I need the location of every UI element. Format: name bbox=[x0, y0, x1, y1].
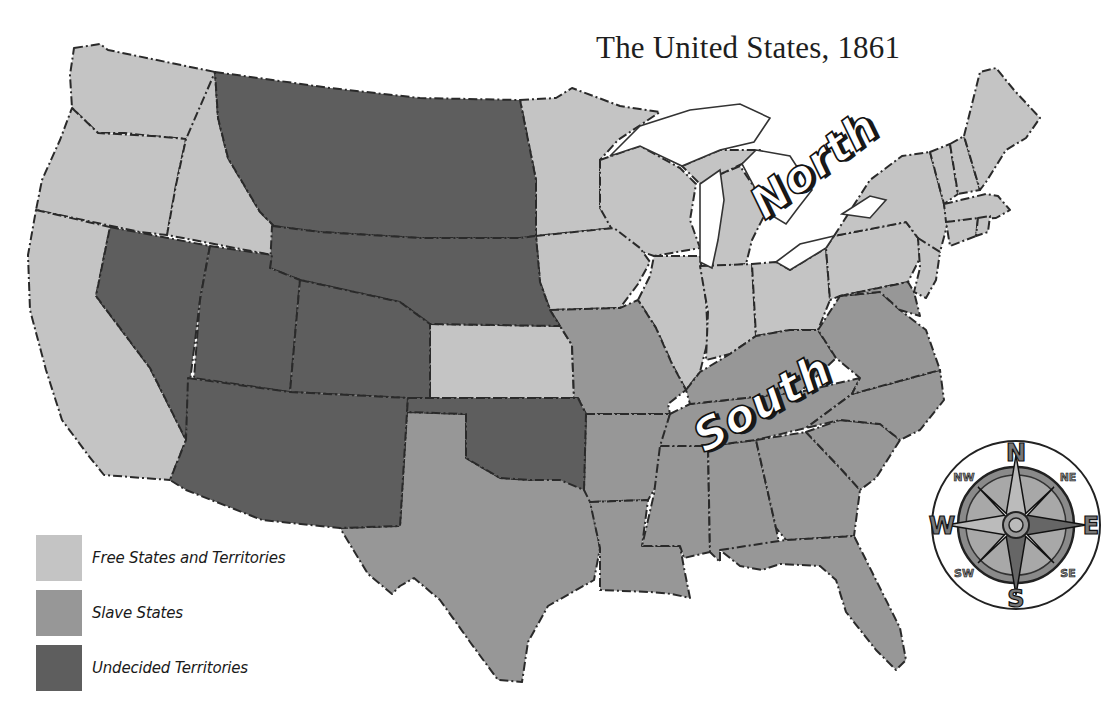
compass-sw: SW bbox=[954, 567, 974, 580]
legend-swatch-free bbox=[36, 535, 82, 581]
map-legend: Free States and Territories Slave States… bbox=[36, 530, 285, 695]
legend-label-free: Free States and Territories bbox=[92, 549, 285, 567]
state-massachusetts bbox=[944, 194, 1010, 222]
compass-e: E bbox=[1083, 512, 1099, 540]
compass-se: SE bbox=[1060, 567, 1075, 580]
state-rhode-island bbox=[976, 216, 990, 236]
compass-s: S bbox=[1007, 585, 1024, 613]
legend-label-undecided: Undecided Territories bbox=[92, 659, 248, 677]
compass-nw: NW bbox=[953, 471, 974, 484]
compass-w: W bbox=[929, 512, 955, 540]
legend-swatch-undecided bbox=[36, 645, 82, 691]
compass-n: N bbox=[1006, 439, 1026, 467]
territory-dakota-montana bbox=[215, 72, 536, 238]
state-florida bbox=[720, 536, 906, 670]
legend-item-free: Free States and Territories bbox=[36, 530, 285, 585]
state-kansas bbox=[430, 324, 574, 398]
state-connecticut bbox=[946, 218, 978, 246]
legend-swatch-slave bbox=[36, 590, 82, 636]
state-maine bbox=[964, 68, 1040, 190]
territory-new-mexico bbox=[170, 378, 408, 528]
legend-label-slave: Slave States bbox=[92, 604, 183, 622]
legend-item-undecided: Undecided Territories bbox=[36, 640, 285, 695]
legend-item-slave: Slave States bbox=[36, 585, 285, 640]
compass-rose-icon: N S W E NW NE SW SE bbox=[928, 437, 1104, 613]
compass-ne: NE bbox=[1060, 471, 1077, 484]
